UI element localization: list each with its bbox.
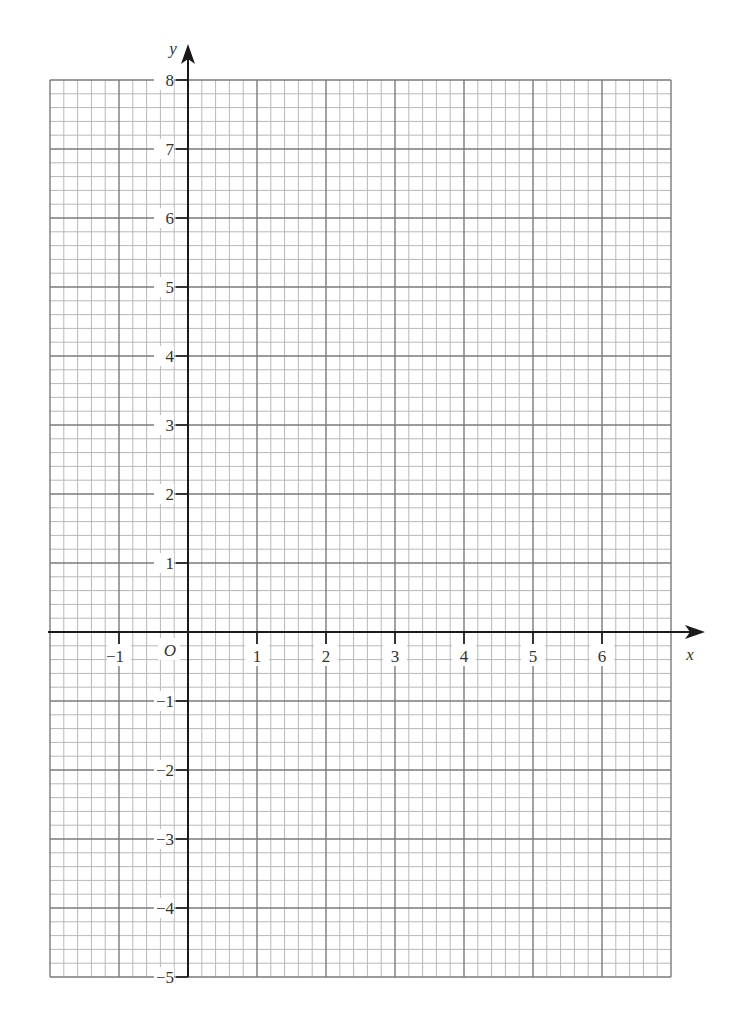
x-axis-label: x [685,645,694,664]
x-tick-label: 4 [460,647,469,666]
x-tick-label: 3 [391,647,400,666]
x-tick-label: 2 [322,647,331,666]
tick-labels: 87654321−1−2−3−4−5−1123456Oxy [106,39,694,987]
y-tick-label: −4 [156,899,175,918]
coordinate-grid: 87654321−1−2−3−4−5−1123456Oxy [0,0,732,1022]
tick-marks [119,80,602,977]
y-tick-label: 5 [166,278,175,297]
y-tick-label: 8 [166,71,175,90]
y-tick-label: 6 [166,209,175,228]
y-tick-label: 2 [166,485,175,504]
y-tick-label: 7 [166,140,175,159]
label-masks [107,70,614,987]
major-grid-lines [50,80,671,977]
y-tick-label: −5 [156,968,174,987]
y-tick-label: −2 [156,761,174,780]
minor-grid-lines [50,80,671,977]
x-tick-label: 1 [253,647,262,666]
y-tick-label: 3 [166,416,175,435]
origin-label: O [164,641,176,660]
y-axis-label: y [167,39,177,58]
y-tick-label: −1 [156,692,174,711]
x-tick-label: 5 [529,647,538,666]
y-tick-label: 4 [166,347,175,366]
y-tick-label: −3 [156,830,174,849]
y-tick-label: 1 [166,554,175,573]
x-tick-label: 6 [598,647,607,666]
x-tick-label: −1 [106,647,124,666]
